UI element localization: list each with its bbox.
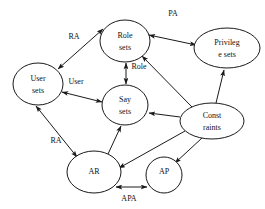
privilege-sets-label-line-1: Privileg <box>214 38 239 47</box>
say-sets-ellipse[interactable] <box>102 85 148 125</box>
edge-label-apa: APA <box>121 194 136 203</box>
edge-ar-say-sets[interactable] <box>108 126 121 154</box>
diagram-canvas: User sets Role sets Privileg e sets Say … <box>0 0 265 209</box>
edge-user-sets-role-sets[interactable] <box>58 29 103 69</box>
constraints-ellipse[interactable] <box>180 103 244 139</box>
constraints-label-line-2: raints <box>203 123 221 132</box>
edge-label-pa: PA <box>168 9 178 18</box>
edge-constraints-role-sets[interactable] <box>142 56 192 107</box>
edge-label-ra-bottom: RA <box>50 136 61 145</box>
ap-label: AP <box>159 167 170 176</box>
edge-label-ra-top: RA <box>68 32 79 41</box>
constraints-label-line-1: Const <box>203 111 222 120</box>
role-sets-ellipse[interactable] <box>100 20 150 62</box>
user-sets-label-line-2: sets <box>32 86 44 95</box>
privilege-sets-label-line-2: e sets <box>218 50 236 59</box>
edge-role-sets-privilege-sets[interactable] <box>149 35 196 45</box>
role-sets-label-line-2: sets <box>119 43 131 52</box>
edge-label-user: User <box>68 77 83 86</box>
edge-user-sets-say-sets[interactable] <box>62 92 102 102</box>
diagram-svg: User sets Role sets Privileg e sets Say … <box>0 0 265 209</box>
edge-user-sets-ar[interactable] <box>36 106 77 157</box>
node-ap[interactable]: AP <box>146 157 182 193</box>
node-ar[interactable]: AR <box>67 151 121 193</box>
privilege-sets-ellipse[interactable] <box>194 28 260 68</box>
node-constraints[interactable]: Const raints <box>180 103 244 139</box>
say-sets-label-line-2: sets <box>119 107 131 116</box>
node-user-sets[interactable]: User sets <box>13 63 63 105</box>
edge-constraints-say-sets[interactable] <box>149 113 180 117</box>
user-sets-ellipse[interactable] <box>13 63 63 105</box>
node-layer: User sets Role sets Privileg e sets Say … <box>13 20 260 193</box>
user-sets-label-line-1: User <box>30 74 45 83</box>
node-role-sets[interactable]: Role sets <box>100 20 150 62</box>
node-privilege-sets[interactable]: Privileg e sets <box>194 28 260 68</box>
node-say-sets[interactable]: Say sets <box>102 85 148 125</box>
edge-label-role: Role <box>131 62 147 71</box>
ar-label: AR <box>88 167 100 176</box>
say-sets-label-line-1: Say <box>119 95 131 104</box>
edge-constraints-ap[interactable] <box>175 138 202 163</box>
edge-constraints-privilege-sets[interactable] <box>216 70 224 103</box>
role-sets-label-line-1: Role <box>117 31 133 40</box>
